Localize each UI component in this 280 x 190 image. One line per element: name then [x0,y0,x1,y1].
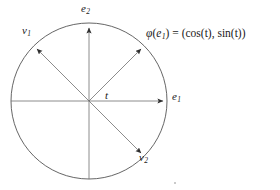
vector-label-v2: v2 [139,152,148,165]
v2-ray [89,101,141,153]
formula-arg-base: e [156,27,161,39]
unit-circle-figure: e2 e1 v1 v2 t φ(e1) = (cos(t), sin(t)) [0,0,280,190]
formula-phi-e1: φ(e1) = (cos(t), sin(t)) [146,28,246,41]
vector-label-v1: v1 [22,25,31,38]
angle-label-t: t [105,90,108,101]
phi-e1-ray [89,49,141,101]
vector-label-v2-subscript: 2 [144,156,148,165]
axis-label-e1: e1 [172,91,181,104]
axis-label-e1-subscript: 1 [177,95,181,104]
scan-artifact-dot [174,182,176,184]
v1-ray [37,49,89,101]
axis-label-e2-subscript: 2 [86,7,90,16]
axis-label-e2: e2 [81,3,90,16]
formula-equals-sign: = [172,27,179,39]
formula-rhs: (cos(t), sin(t)) [182,27,246,39]
vector-label-v1-subscript: 1 [27,29,31,38]
